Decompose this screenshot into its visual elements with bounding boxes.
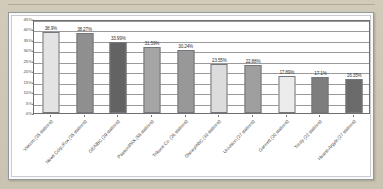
x-axis-tick-mark [50,115,51,117]
y-axis-tick-label: 0% [26,112,32,116]
x-axis-tick-mark [218,115,219,117]
bar[interactable] [143,47,160,113]
bar-slot: 33.99% [101,21,135,113]
x-axis-tick-mark [84,115,85,117]
page-background: 45%40%35%30%25%20%15%10%5%0% 38.9%38.27%… [0,0,383,189]
bar-value-label: 33.99% [111,36,126,41]
bar[interactable] [110,42,127,113]
y-axis-tick-label: 10% [24,91,33,95]
bar-slot: 16.35% [337,21,371,113]
bar-value-label: 23.55% [212,58,227,63]
bar-slot: 30.24% [169,21,203,113]
bar-slot: 17.89% [270,21,304,113]
bar-slot: 31.59% [135,21,169,113]
bar[interactable] [177,50,194,113]
bar-slot: 17.1% [304,21,338,113]
bar-value-label: 31.59% [145,41,160,46]
y-axis-tick-label: 20% [24,70,33,74]
x-axis-slot: Hearst-Argyle (27 stations) [336,115,370,177]
bar-value-label: 38.9% [45,26,57,31]
bar[interactable] [211,64,228,113]
x-axis-tick-mark [319,115,320,117]
chart-card: 45%40%35%30%25%20%15%10%5%0% 38.9%38.27%… [8,12,374,180]
bar-slot: 22.88% [236,21,270,113]
bar-slot: 38.27% [68,21,102,113]
y-axis-tick-label: 5% [26,101,32,105]
y-axis-tick-label: 35% [24,39,33,43]
bar[interactable] [312,77,329,113]
y-axis-tick-label: 40% [24,28,33,32]
y-axis: 45%40%35%30%25%20%15%10%5%0% [14,20,33,114]
bar[interactable] [278,76,295,113]
bar-slot: 23.55% [203,21,237,113]
bar[interactable] [346,79,363,113]
bar-value-label: 22.88% [246,59,261,64]
bar-slot: 38.9% [34,21,68,113]
bar-value-label: 38.27% [77,27,92,32]
y-axis-tick-label: 15% [24,80,33,84]
y-axis-tick-label: 45% [24,18,33,22]
x-axis-tick-mark [151,115,152,117]
x-axis: Viacom (35 stations)News Corp./Fox (35 s… [33,115,370,177]
bar-value-label: 16.35% [347,73,362,78]
x-axis-tick-mark [353,115,354,117]
x-axis-tick-mark [117,115,118,117]
chart-plot-wrapper: 45%40%35%30%25%20%15%10%5%0% 38.9%38.27%… [12,16,370,176]
page-top-rule [8,4,375,5]
bar[interactable] [76,33,93,113]
y-axis-tick-label: 25% [24,60,33,64]
y-axis-tick-label: 30% [24,49,33,53]
bar[interactable] [42,32,59,113]
x-axis-tick-mark [185,115,186,117]
bar-value-label: 17.89% [279,70,294,75]
bar-value-label: 30.24% [178,44,193,49]
plot-area: 38.9%38.27%33.99%31.59%30.24%23.55%22.88… [33,20,370,114]
x-axis-tick-label: Viacom (35 stations) [22,119,54,152]
x-axis-tick-mark [286,115,287,117]
bar[interactable] [245,65,262,113]
bar-value-label: 17.1% [314,71,326,76]
bar-series: 38.9%38.27%33.99%31.59%30.24%23.55%22.88… [34,21,369,113]
x-axis-tick-mark [252,115,253,117]
chart-card-inner: 45%40%35%30%25%20%15%10%5%0% 38.9%38.27%… [11,15,371,177]
